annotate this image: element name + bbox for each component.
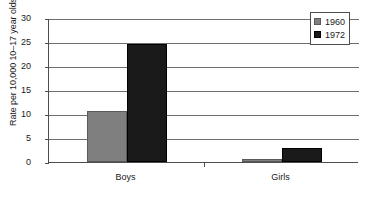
x-category-label-girls: Girls (236, 172, 326, 182)
y-tick-mark (45, 19, 49, 20)
y-tick-mark (45, 67, 49, 68)
y-tick-label: 20 (7, 61, 31, 71)
x-tick-mark (204, 163, 205, 167)
y-tick-label: 15 (7, 85, 31, 95)
chart-legend: 1960 1972 (310, 12, 350, 45)
legend-label-1960: 1960 (325, 17, 345, 27)
legend-swatch-1972-icon (314, 31, 321, 38)
y-tick-mark (45, 163, 49, 164)
bar-boys-1972[interactable] (127, 44, 167, 162)
x-category-label-boys: Boys (81, 172, 171, 182)
bar-boys-1960[interactable] (87, 111, 127, 162)
bar-girls-1960[interactable] (242, 159, 282, 162)
gridline (49, 67, 359, 68)
y-tick-label: 10 (7, 109, 31, 119)
y-tick-mark (45, 139, 49, 140)
y-tick-label: 30 (7, 13, 31, 23)
legend-item-1960[interactable]: 1960 (314, 15, 345, 28)
bar-girls-1972[interactable] (282, 148, 322, 162)
y-tick-label: 5 (7, 133, 31, 143)
y-tick-label: 25 (7, 37, 31, 47)
legend-swatch-1960-icon (314, 18, 321, 25)
y-tick-mark (45, 43, 49, 44)
gridline (49, 91, 359, 92)
legend-label-1972: 1972 (325, 30, 345, 40)
y-tick-label: 0 (7, 157, 31, 167)
legend-item-1972[interactable]: 1972 (314, 28, 345, 41)
y-tick-mark (45, 91, 49, 92)
bar-chart: Rate per 10,000 10–17 year olds 05101520… (0, 0, 371, 202)
y-tick-mark (45, 115, 49, 116)
